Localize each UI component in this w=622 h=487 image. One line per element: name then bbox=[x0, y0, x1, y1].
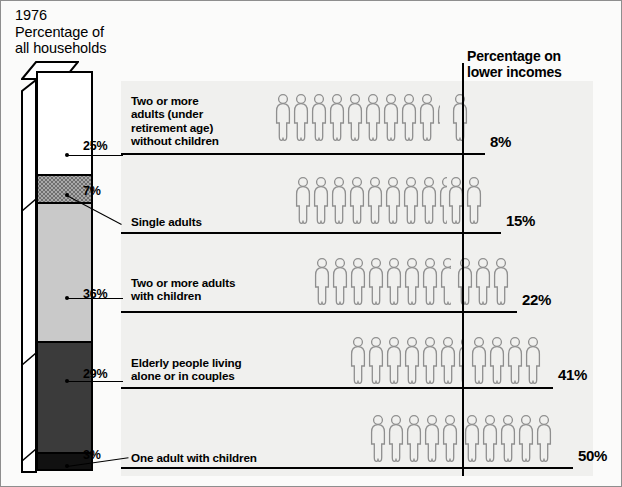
figure-icon bbox=[481, 413, 499, 464]
threshold-axis-line bbox=[462, 63, 464, 476]
row-label-5: One adult with children bbox=[131, 451, 257, 464]
bar-side-face-icon bbox=[21, 79, 37, 473]
figure-icon bbox=[463, 413, 481, 464]
leader-line-1 bbox=[67, 155, 123, 156]
right-heading-line-1: Percentage on bbox=[467, 48, 562, 64]
figure-icon bbox=[385, 335, 403, 386]
figure-icon bbox=[292, 92, 310, 143]
figure-icon bbox=[312, 175, 330, 226]
pictogram-row-2 bbox=[294, 175, 483, 226]
row-label-5-line-1: One adult with children bbox=[131, 451, 257, 464]
row-rule-3 bbox=[121, 311, 517, 313]
figure-icon bbox=[474, 256, 492, 307]
figure-icon bbox=[331, 256, 349, 307]
figure-icon bbox=[451, 92, 469, 143]
row-label-3-line-2: with children bbox=[131, 289, 235, 302]
pictogram-row-5 bbox=[369, 413, 553, 464]
figure-icon bbox=[499, 413, 517, 464]
pictogram-row-3 bbox=[313, 256, 510, 307]
pictogram-row-4 bbox=[349, 335, 542, 386]
bar-segment-two-or-more-adults-no-children bbox=[38, 73, 91, 176]
leader-line-3 bbox=[67, 298, 123, 299]
bar-percent-label-5: 3% bbox=[83, 448, 101, 462]
figure-icon bbox=[421, 335, 439, 386]
figure-icon bbox=[456, 256, 474, 307]
figure-icon bbox=[369, 413, 387, 464]
income-percent-4: 41% bbox=[558, 366, 587, 383]
pictogram-row-1 bbox=[274, 92, 469, 143]
figure-icon bbox=[310, 92, 328, 143]
row-label-2-line-1: Single adults bbox=[131, 215, 202, 228]
figure-icon bbox=[506, 335, 524, 386]
figure-icon bbox=[313, 256, 331, 307]
figure-icon-partial bbox=[436, 92, 440, 143]
figure-icon bbox=[364, 92, 382, 143]
figure-icon bbox=[465, 175, 483, 226]
stacked-bar-chart bbox=[21, 61, 109, 476]
figure-icon bbox=[367, 335, 385, 386]
figure-icon bbox=[403, 256, 421, 307]
figure-icon bbox=[349, 256, 367, 307]
bar-percent-label-2: 7% bbox=[83, 184, 101, 198]
bar-segment-elderly-people bbox=[38, 343, 91, 454]
figure-icon bbox=[367, 256, 385, 307]
figure-icon bbox=[346, 92, 364, 143]
figure-icon bbox=[421, 256, 439, 307]
row-rule-4 bbox=[121, 387, 553, 389]
row-label-4-line-1: Elderly people living bbox=[131, 356, 242, 369]
figure-icon bbox=[385, 256, 403, 307]
row-label-4: Elderly people living alone or in couple… bbox=[131, 356, 242, 383]
income-percent-3: 22% bbox=[522, 291, 551, 308]
figure-icon bbox=[441, 413, 459, 464]
title-line-1: Percentage of bbox=[15, 24, 106, 41]
title-line-2: all households bbox=[15, 40, 106, 57]
figure-icon bbox=[366, 175, 384, 226]
figure-icon-partial bbox=[439, 256, 451, 307]
figure-icon bbox=[328, 92, 346, 143]
row-label-3-line-1: Two or more adults bbox=[131, 276, 235, 289]
row-label-1-line-1: Two or more bbox=[131, 94, 219, 107]
figure-icon bbox=[420, 175, 438, 226]
figure-icon bbox=[403, 335, 421, 386]
figure-icon bbox=[349, 335, 367, 386]
title-year: 1976 bbox=[15, 7, 106, 24]
figure-icon bbox=[402, 175, 420, 226]
figure-icon bbox=[294, 175, 312, 226]
figure-icon-partial bbox=[438, 175, 447, 226]
row-label-1-line-2: adults (under bbox=[131, 107, 219, 120]
page-title: 1976 Percentage of all households bbox=[15, 7, 106, 57]
infographic-canvas: 1976 Percentage of all households Percen… bbox=[0, 0, 622, 487]
bar-percent-label-1: 25% bbox=[83, 139, 107, 153]
row-rule-5 bbox=[121, 467, 573, 469]
figure-icon bbox=[274, 92, 292, 143]
row-label-1-line-4: without children bbox=[131, 134, 219, 147]
right-axis-heading: Percentage on lower incomes bbox=[467, 48, 562, 80]
figure-icon bbox=[400, 92, 418, 143]
row-label-1-line-3: retirement age) bbox=[131, 121, 219, 134]
figure-icon bbox=[405, 413, 423, 464]
bar-percent-label-4: 29% bbox=[83, 367, 107, 381]
stacked-bar-front bbox=[36, 71, 93, 471]
income-percent-1: 8% bbox=[490, 133, 511, 150]
figure-icon bbox=[470, 335, 488, 386]
row-rule-1 bbox=[121, 153, 485, 155]
row-label-4-line-2: alone or in couples bbox=[131, 369, 242, 382]
right-heading-line-2: lower incomes bbox=[467, 64, 562, 80]
figure-icon bbox=[524, 335, 542, 386]
income-percent-2: 15% bbox=[506, 212, 535, 229]
figure-icon bbox=[387, 413, 405, 464]
figure-icon bbox=[384, 175, 402, 226]
figure-icon bbox=[517, 413, 535, 464]
figure-icon bbox=[488, 335, 506, 386]
row-label-2: Single adults bbox=[131, 215, 202, 228]
income-percent-5: 50% bbox=[578, 447, 607, 464]
figure-icon bbox=[423, 413, 441, 464]
figure-icon bbox=[535, 413, 553, 464]
figure-icon bbox=[330, 175, 348, 226]
figure-icon bbox=[492, 256, 510, 307]
figure-icon bbox=[439, 335, 457, 386]
row-label-1: Two or more adults (under retirement age… bbox=[131, 94, 219, 148]
figure-icon bbox=[348, 175, 366, 226]
figure-icon bbox=[418, 92, 436, 143]
row-label-3: Two or more adults with children bbox=[131, 276, 235, 303]
